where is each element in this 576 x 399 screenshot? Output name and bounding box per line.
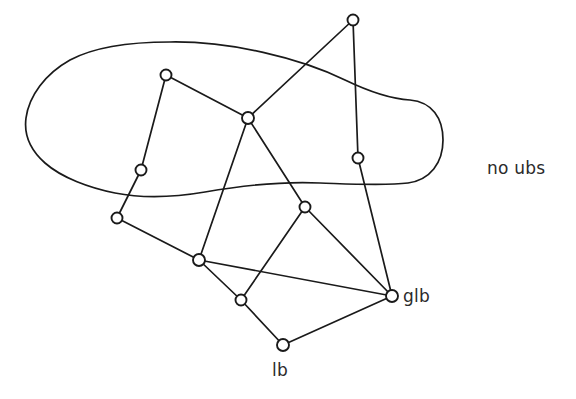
upper-set-blob [26, 42, 443, 197]
edge-n-center-to-n-mid-low [199, 118, 248, 260]
node-left-lower[interactable] [112, 213, 123, 224]
node-lower[interactable] [236, 295, 247, 306]
edge-n-center-to-n-mid-right [248, 118, 305, 207]
edge-n-lb-to-n-glb [283, 296, 392, 345]
node-lb[interactable] [277, 339, 289, 351]
lattice-diagram [0, 0, 576, 399]
edge-n-upper-left-to-n-left-mid [141, 75, 166, 170]
edge-n-right-mid-to-n-glb [358, 158, 392, 296]
edge-n-top-to-n-center [248, 20, 353, 118]
edge-n-upper-left-to-n-center [166, 75, 248, 118]
region-outlines [26, 42, 443, 197]
node-center[interactable] [242, 112, 254, 124]
node-middle-right[interactable] [300, 202, 311, 213]
node-middle-lower[interactable] [193, 254, 205, 266]
edge-n-top-to-n-right-mid [353, 20, 358, 158]
edges-group [117, 20, 392, 345]
label-glb: glb [403, 286, 430, 306]
node-left-middle[interactable] [136, 165, 147, 176]
edge-n-mid-right-to-n-lower [241, 207, 305, 300]
edge-n-lower-to-n-lb [241, 300, 283, 345]
node-glb[interactable] [386, 290, 398, 302]
node-upper-left[interactable] [161, 70, 172, 81]
node-top[interactable] [348, 15, 359, 26]
label-lb: lb [272, 360, 288, 380]
node-right-middle[interactable] [353, 153, 364, 164]
edge-n-left-low-to-n-mid-low [117, 218, 199, 260]
label-no-ubs: no ubs [487, 158, 545, 178]
